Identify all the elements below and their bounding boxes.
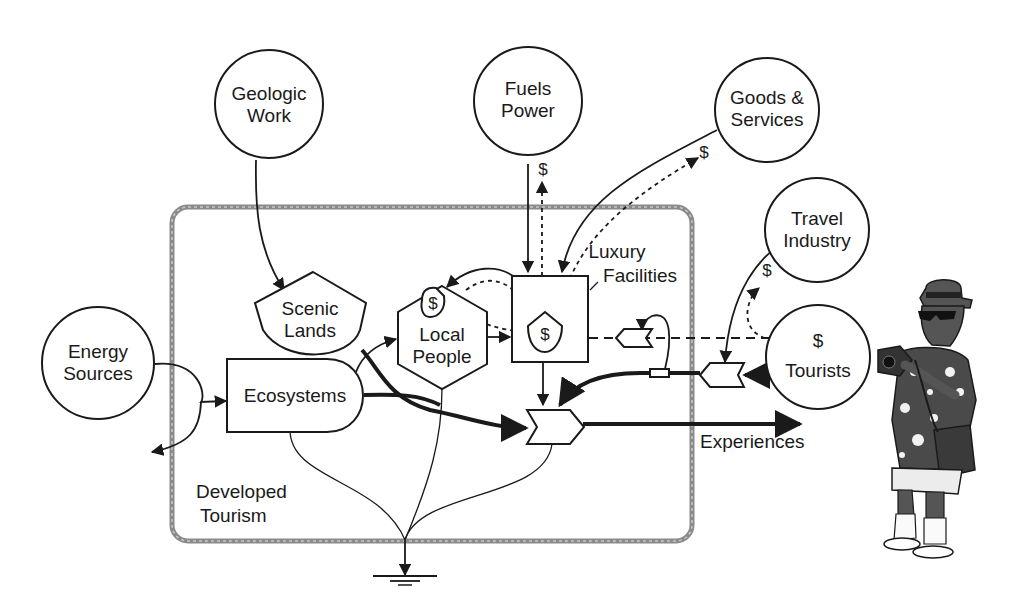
goods-services-label-1: Goods &	[730, 87, 804, 108]
luxury-facilities-label-2: Facilities	[603, 265, 677, 286]
boundary-label-line2: Tourism	[200, 505, 267, 526]
energy-diagram: Developed Tourism	[0, 0, 1020, 604]
local-people-money-symbol: $	[428, 294, 438, 313]
component-scenic-lands[interactable]: Scenic Lands	[255, 272, 366, 354]
component-local-people[interactable]: $ Local People	[398, 286, 487, 389]
goods-money-label: $	[699, 143, 709, 162]
travel-industry-label-2: Industry	[783, 230, 851, 251]
heat-sink-icon	[373, 576, 437, 585]
source-geologic-work[interactable]: Geologic Work	[215, 50, 323, 158]
scenic-lands-label-1: Scenic	[281, 298, 338, 319]
ecosystems-label: Ecosystems	[244, 385, 346, 406]
money-exchange-gate	[616, 329, 652, 347]
experiences-output-label: Experiences	[700, 431, 805, 452]
tourists-money-symbol: $	[813, 330, 824, 351]
fuels-money-label: $	[538, 160, 548, 179]
goods-services-label-2: Services	[731, 109, 804, 130]
travel-money-label: $	[762, 261, 772, 280]
source-travel-industry[interactable]: Travel Industry	[765, 178, 869, 282]
travel-industry-label-1: Travel	[791, 208, 843, 229]
source-energy-sources[interactable]: Energy Sources	[42, 307, 154, 419]
fuels-power-label-1: Fuels	[505, 78, 551, 99]
source-tourists[interactable]: Tourists $	[766, 305, 870, 409]
tourist-interaction-gate	[700, 363, 744, 387]
geologic-work-label-2: Work	[247, 105, 291, 126]
component-luxury-facilities[interactable]: $ Luxury Facilities	[512, 241, 677, 362]
tourists-label: Tourists	[785, 360, 850, 381]
experiences-interaction-gate	[527, 410, 584, 444]
tourist-illustration	[878, 280, 976, 558]
boundary-label-line1: Developed	[196, 481, 287, 502]
luxury-facilities-label-1: Luxury	[588, 241, 646, 262]
scenic-lands-label-2: Lands	[284, 320, 336, 341]
component-ecosystems[interactable]: Ecosystems	[227, 359, 363, 432]
local-people-label-2: People	[412, 346, 471, 367]
fuels-power-label-2: Power	[501, 100, 556, 121]
flow-tap	[650, 369, 669, 377]
luxury-money-symbol: $	[540, 325, 550, 344]
local-people-label-1: Local	[419, 324, 464, 345]
energy-sources-label-1: Energy	[68, 341, 129, 362]
geologic-work-label-1: Geologic	[232, 83, 307, 104]
energy-sources-label-2: Sources	[63, 363, 133, 384]
source-fuels-power[interactable]: Fuels Power	[474, 47, 582, 155]
source-goods-services[interactable]: Goods & Services	[715, 58, 819, 162]
